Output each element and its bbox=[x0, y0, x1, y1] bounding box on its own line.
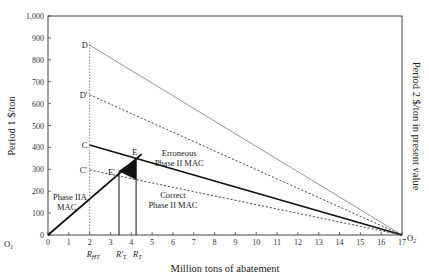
x-tick-label: 0 bbox=[46, 238, 50, 247]
point-label: C bbox=[82, 140, 88, 150]
point-label: C' bbox=[80, 165, 88, 175]
y-tick-label: 300 bbox=[32, 165, 44, 174]
x-marker-label: RHT bbox=[86, 249, 101, 260]
x-tick-label: 13 bbox=[315, 238, 323, 247]
axis-ticks bbox=[48, 16, 402, 235]
point-labels: DD'CC'AEE' bbox=[80, 40, 138, 202]
x-tick-label: 10 bbox=[252, 238, 260, 247]
mac-chart: 01002003004005006007008009001,000 012345… bbox=[0, 0, 429, 277]
x-marker-label: RT bbox=[132, 249, 142, 260]
y-tick-label: 0 bbox=[40, 231, 44, 240]
x-tick-label: 1 bbox=[67, 238, 71, 247]
x-marker-label: R'T bbox=[115, 249, 127, 260]
x-tick-label: 14 bbox=[336, 238, 344, 247]
y-tick-label: 600 bbox=[32, 100, 44, 109]
x-tick-label: 3 bbox=[108, 238, 112, 247]
x-tick-label: 8 bbox=[213, 238, 217, 247]
x-tick-label: 6 bbox=[171, 238, 175, 247]
point-label: D bbox=[82, 40, 88, 50]
x-tick-labels: 01234567891011121314151617 bbox=[46, 238, 406, 247]
origin-left-label: O1 bbox=[4, 239, 13, 250]
point-label: E' bbox=[108, 167, 115, 177]
point-label: A bbox=[81, 192, 88, 202]
x-tick-label: 15 bbox=[356, 238, 364, 247]
x-tick-label: 9 bbox=[233, 238, 237, 247]
x-tick-label: 2 bbox=[88, 238, 92, 247]
annotations: Phase IIMACErroneousPhase II MACCorrectP… bbox=[53, 148, 204, 212]
point-label: D' bbox=[80, 90, 88, 100]
y-axis-title-left: Period 1 $/ton bbox=[6, 96, 17, 156]
x-tick-label: 12 bbox=[294, 238, 302, 247]
origin-right-label: O2 bbox=[407, 233, 416, 244]
annotation: Phase IIMAC bbox=[53, 192, 81, 212]
y-tick-label: 100 bbox=[32, 209, 44, 218]
x-tick-label: 11 bbox=[273, 238, 281, 247]
plot-frame bbox=[48, 16, 402, 235]
y-tick-labels: 01002003004005006007008009001,000 bbox=[26, 12, 44, 240]
x-tick-label: 7 bbox=[192, 238, 196, 247]
y-tick-label: 500 bbox=[32, 122, 44, 131]
x-tick-label: 4 bbox=[129, 238, 133, 247]
y-tick-label: 400 bbox=[32, 143, 44, 152]
annotation: ErroneousPhase II MAC bbox=[155, 148, 204, 168]
annotation: CorrectPhase II MAC bbox=[148, 190, 197, 210]
y-axis-title-right: Period 2 $/ton in present value bbox=[411, 62, 422, 191]
series-lines bbox=[48, 45, 402, 235]
y-tick-label: 900 bbox=[32, 34, 44, 43]
y-tick-label: 1,000 bbox=[26, 12, 44, 21]
x-tick-label: 17 bbox=[398, 238, 406, 247]
y-tick-label: 200 bbox=[32, 187, 44, 196]
x-axis-title: Million tons of abatement bbox=[171, 263, 280, 274]
y-tick-label: 800 bbox=[32, 56, 44, 65]
x-tick-label: 5 bbox=[150, 238, 154, 247]
x-tick-label: 16 bbox=[377, 238, 385, 247]
point-label: E bbox=[132, 147, 137, 157]
y-tick-label: 700 bbox=[32, 78, 44, 87]
